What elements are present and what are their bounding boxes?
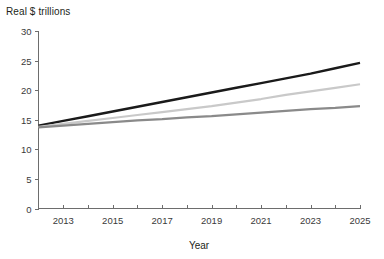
x-tick-label: 2019 xyxy=(201,215,222,226)
y-tick-label: 25 xyxy=(21,56,32,67)
x-tick-label: 2013 xyxy=(53,215,74,226)
x-tick-label: 2017 xyxy=(152,215,173,226)
y-tick-label: 30 xyxy=(21,26,32,37)
y-tick-group: 051015202530 xyxy=(21,26,39,215)
x-tick-label: 2021 xyxy=(251,215,272,226)
y-tick-label: 0 xyxy=(26,204,31,215)
y-tick-label: 20 xyxy=(21,85,32,96)
chart-plot-area: 051015202530 201320152017201920212023202… xyxy=(0,0,384,259)
x-tick-label: 2015 xyxy=(102,215,123,226)
y-tick-label: 15 xyxy=(21,115,32,126)
y-tick-label: 10 xyxy=(21,144,32,155)
x-tick-group: 2013201520172019202120232025 xyxy=(53,205,371,226)
axes-group xyxy=(39,31,361,209)
y-tick-label: 5 xyxy=(26,174,31,185)
x-tick-label: 2025 xyxy=(349,215,370,226)
series-group xyxy=(39,63,361,127)
series-line-mid-growth xyxy=(39,84,361,127)
line-chart-figure: Real $ trillions 051015202530 2013201520… xyxy=(0,0,384,259)
x-tick-label: 2023 xyxy=(300,215,321,226)
x-axis-label: Year xyxy=(189,240,210,251)
